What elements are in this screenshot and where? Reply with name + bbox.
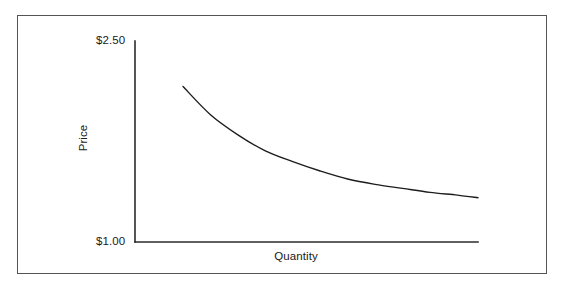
x-axis-label: Quantity: [246, 250, 346, 262]
y-axis-tick-bottom: $1.00: [96, 235, 125, 247]
figure-root: $2.50 $1.00 Price Quantity: [0, 0, 563, 290]
y-axis-label: Price: [77, 110, 89, 166]
y-axis-tick-top: $2.50: [96, 34, 125, 46]
